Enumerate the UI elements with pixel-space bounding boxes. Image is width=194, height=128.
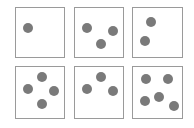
dot-icon	[108, 86, 118, 96]
dot-icon	[37, 72, 47, 82]
dot-card-1[interactable]	[15, 7, 65, 58]
dot-icon	[49, 86, 59, 96]
dot-icon	[146, 17, 156, 27]
dot-icon	[82, 84, 92, 94]
dot-icon	[169, 101, 179, 111]
dot-icon	[82, 23, 92, 33]
dot-icon	[37, 99, 47, 109]
dot-icon	[154, 92, 164, 102]
dot-icon	[108, 26, 118, 36]
dot-icon	[23, 84, 33, 94]
dot-icon	[96, 39, 106, 49]
dot-card-3[interactable]	[132, 7, 183, 58]
dot-icon	[96, 72, 106, 82]
dot-icon	[140, 36, 150, 46]
dot-icon	[163, 74, 173, 84]
dot-icon	[23, 23, 33, 33]
dot-icon	[140, 96, 150, 106]
dot-icon	[141, 74, 151, 84]
